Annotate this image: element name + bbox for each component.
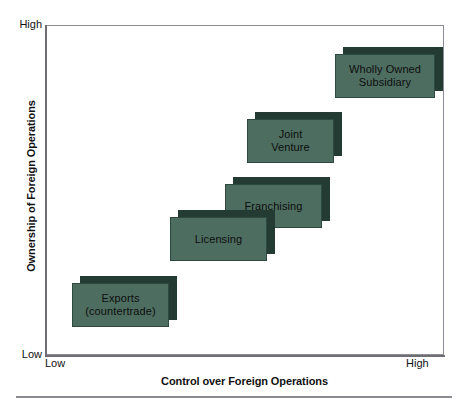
entry-mode-label-wholly-owned-subsidiary: Wholly Owned Subsidiary — [335, 54, 435, 98]
entry-mode-label-exports: Exports (countertrade) — [72, 283, 169, 327]
entry-mode-box-wholly-owned-subsidiary: Wholly Owned Subsidiary — [335, 54, 435, 98]
entry-mode-label-joint-venture: Joint Venture — [247, 119, 334, 163]
bottom-divider-rule — [16, 396, 452, 398]
entry-mode-label-licensing: Licensing — [170, 217, 267, 261]
y-axis-line — [45, 25, 47, 356]
y-axis-tick-high: High — [19, 18, 42, 30]
entry-mode-box-joint-venture: Joint Venture — [247, 119, 334, 163]
entry-mode-box-licensing: Licensing — [170, 217, 267, 261]
x-axis-tick-low: Low — [45, 357, 65, 369]
x-axis-line — [45, 355, 445, 357]
x-axis-tick-high: High — [406, 357, 429, 369]
y-axis-tick-low: Low — [22, 348, 42, 360]
entry-mode-positioning-diagram: Ownership of Foreign Operations Control … — [0, 0, 467, 407]
y-axis-title: Ownership of Foreign Operations — [25, 71, 37, 301]
entry-mode-box-exports: Exports (countertrade) — [72, 283, 169, 327]
x-axis-title: Control over Foreign Operations — [45, 375, 444, 387]
